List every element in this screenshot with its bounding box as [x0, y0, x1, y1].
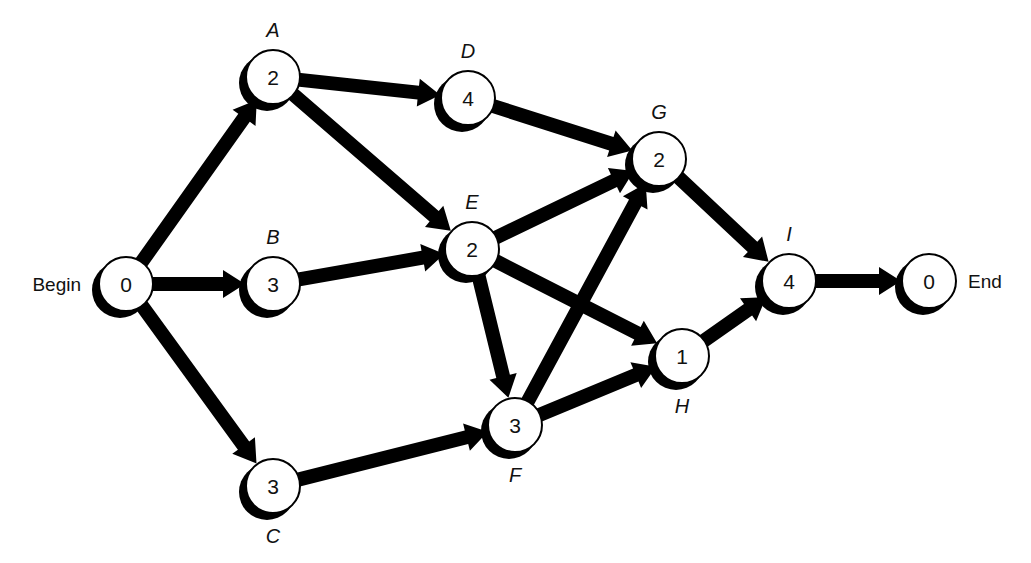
- node-F: 3F: [481, 398, 542, 486]
- arrow-H-to-I: [699, 297, 767, 347]
- arrow-F-to-H: [535, 362, 656, 422]
- arrow-G-to-I: [672, 171, 768, 262]
- node-letter: C: [266, 525, 281, 547]
- arrow-E-to-H: [491, 254, 657, 346]
- node-value: 3: [509, 414, 521, 437]
- node-begin: 0Begin: [32, 257, 153, 318]
- node-I: 4I: [755, 223, 816, 315]
- arrow-D-to-G: [490, 99, 633, 157]
- node-letter: E: [465, 191, 479, 213]
- node-end: 0End: [895, 254, 1002, 315]
- node-letter: G: [651, 101, 667, 123]
- node-value: 4: [462, 87, 474, 110]
- node-B: 3B: [239, 226, 300, 318]
- node-D: 4D: [434, 40, 495, 132]
- node-value: 1: [676, 345, 688, 368]
- arrow-begin-to-B: [151, 270, 245, 298]
- node-G: 2G: [625, 101, 686, 193]
- node-value: 0: [923, 270, 935, 293]
- network-diagram: 0Begin2A3B3C4D2E3F2G1H4I0End: [0, 0, 1031, 563]
- node-value: 2: [653, 148, 665, 171]
- node-letter: D: [461, 40, 475, 62]
- arrow-I-to-end: [814, 267, 901, 295]
- node-H: 1H: [648, 329, 709, 417]
- node-A: 2A: [239, 19, 300, 111]
- node-letter: A: [265, 19, 279, 41]
- node-E: 2E: [438, 191, 499, 283]
- node-value: 4: [783, 270, 795, 293]
- node-value: 2: [466, 238, 478, 261]
- node-value: 3: [267, 475, 279, 498]
- arrow-begin-to-C: [135, 300, 256, 463]
- node-letter: B: [266, 226, 279, 248]
- node-letter: H: [675, 395, 690, 417]
- arrow-C-to-F: [296, 424, 488, 487]
- end-label: End: [968, 271, 1002, 292]
- node-C: 3C: [239, 459, 300, 547]
- node-value: 2: [267, 66, 279, 89]
- arrow-E-to-F: [471, 272, 517, 398]
- arrow-B-to-E: [296, 244, 444, 287]
- arrow-begin-to-A: [135, 100, 257, 268]
- arrow-A-to-E: [287, 88, 451, 231]
- node-letter: F: [509, 464, 523, 486]
- arrow-A-to-D: [297, 73, 440, 107]
- node-value: 3: [267, 273, 279, 296]
- node-letter: I: [786, 223, 792, 245]
- begin-label: Begin: [32, 274, 81, 295]
- node-value: 0: [120, 273, 132, 296]
